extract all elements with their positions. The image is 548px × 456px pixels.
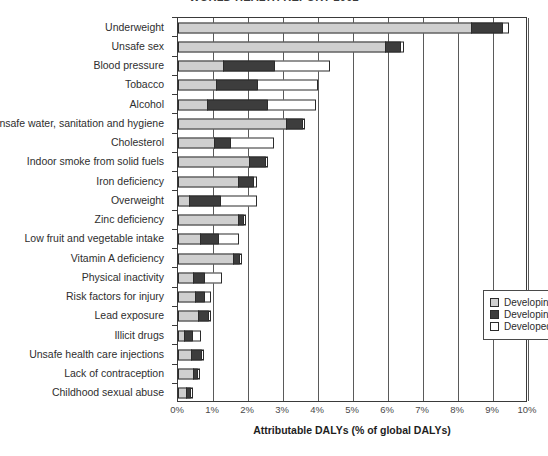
bar-segment-series-1 (178, 99, 208, 110)
x-axis-tick-label: 0% (170, 404, 184, 415)
stacked-bar[interactable] (178, 330, 201, 341)
stacked-bar[interactable] (178, 61, 330, 72)
bar-segment-series-3 (302, 118, 305, 129)
bar-segment-series-2 (207, 99, 268, 110)
bar-row (178, 191, 526, 210)
bar-row (178, 153, 526, 172)
stacked-bar[interactable] (178, 138, 274, 149)
bar-segment-series-3 (243, 215, 246, 226)
stacked-bar[interactable] (178, 215, 246, 226)
stacked-bar[interactable] (178, 99, 316, 110)
y-axis-label: Low fruit and vegetable intake (24, 232, 164, 244)
bar-segment-series-3 (201, 349, 204, 360)
bar-row (178, 18, 526, 37)
bar-segment-series-3 (253, 176, 257, 187)
stacked-bar[interactable] (178, 253, 242, 264)
x-axis-tick-label: 8% (450, 404, 464, 415)
x-axis-tick-label: 4% (310, 404, 324, 415)
y-axis-label: Indoor smoke from solid fuels (27, 155, 164, 167)
stacked-bar[interactable] (178, 272, 222, 283)
bar-segment-series-3 (400, 41, 404, 52)
bar-segment-series-3 (190, 388, 193, 399)
bar-segment-series-1 (178, 157, 250, 168)
x-axis-tick-label: 5% (345, 404, 359, 415)
stacked-bar[interactable] (178, 195, 257, 206)
bar-segment-series-1 (178, 253, 234, 264)
bar-segment-series-3 (192, 330, 201, 341)
bar-segment-series-3 (257, 80, 318, 91)
stacked-bar[interactable] (178, 369, 200, 380)
bar-segment-series-3 (220, 195, 257, 206)
bar-row (178, 37, 526, 56)
bar-segment-series-1 (178, 61, 224, 72)
plot-area: Developing countries with high mortality… (177, 17, 527, 402)
gridline-10% (528, 18, 529, 401)
bar-segment-series-1 (178, 234, 201, 245)
bar-row (178, 211, 526, 230)
bar-segment-series-1 (178, 215, 239, 226)
y-axis-label: Unsafe water, sanitation and hygiene (0, 117, 164, 129)
bar-row (178, 365, 526, 384)
chart-container: WORLD HEALTH REPORT 2002 UnderweightUnsa… (0, 0, 548, 456)
bar-segment-series-2 (189, 195, 221, 206)
bar-row (178, 57, 526, 76)
stacked-bar[interactable] (178, 176, 257, 187)
bar-segment-series-2 (214, 138, 232, 149)
stacked-bar[interactable] (178, 234, 239, 245)
legend-label: Developing countries with high mortality (504, 297, 548, 308)
bar-segment-series-1 (178, 272, 194, 283)
y-axis-label: Iron deficiency (96, 175, 164, 187)
bar-segment-series-3 (197, 369, 200, 380)
x-axis-tick-label: 3% (275, 404, 289, 415)
bar-segment-series-3 (208, 311, 211, 322)
chart-title: WORLD HEALTH REPORT 2002 (0, 0, 548, 3)
stacked-bar[interactable] (178, 118, 305, 129)
bar-segment-series-3 (204, 292, 211, 303)
x-axis-tick-label: 2% (240, 404, 254, 415)
bar-row (178, 249, 526, 268)
stacked-bar[interactable] (178, 22, 509, 33)
bar-segment-series-1 (178, 176, 239, 187)
legend-item[interactable]: Developed countries (490, 321, 548, 332)
bar-segment-series-1 (178, 22, 472, 33)
stacked-bar[interactable] (178, 388, 193, 399)
bar-segment-series-2 (200, 234, 219, 245)
legend-swatch-icon (490, 322, 499, 331)
legend-item[interactable]: Developing countries with high mortality (490, 297, 548, 308)
bar-row (178, 345, 526, 364)
stacked-bar[interactable] (178, 349, 204, 360)
x-axis-tick-label: 6% (380, 404, 394, 415)
stacked-bar[interactable] (178, 292, 211, 303)
bar-segment-series-1 (178, 369, 194, 380)
bar-row (178, 288, 526, 307)
bar-row (178, 134, 526, 153)
y-axis-label: Underweight (105, 21, 164, 33)
stacked-bar[interactable] (178, 157, 268, 168)
x-axis-title: Attributable DALYs (% of global DALYs) (177, 424, 527, 436)
y-axis-label: Blood pressure (93, 59, 164, 71)
bar-segment-series-2 (238, 176, 254, 187)
y-axis-label: Overweight (111, 194, 164, 206)
x-axis-tick-label-group: 0%1%2%3%4%5%6%7%8%9%10% (0, 404, 548, 420)
bar-segment-series-3 (267, 99, 316, 110)
bar-segment-series-1 (178, 311, 199, 322)
stacked-bar[interactable] (178, 80, 318, 91)
legend-label: Developing countries with low mortality (504, 309, 548, 320)
bar-row (178, 76, 526, 95)
bar-segment-series-3 (265, 157, 268, 168)
x-axis-tick-label: 7% (415, 404, 429, 415)
stacked-bar[interactable] (178, 41, 404, 52)
bar-segment-series-1 (178, 292, 196, 303)
y-axis-label: Alcohol (130, 98, 164, 110)
stacked-bar[interactable] (178, 311, 211, 322)
bar-segment-series-2 (249, 157, 267, 168)
bar-segment-series-3 (204, 272, 222, 283)
bar-segment-series-3 (274, 61, 330, 72)
bar-segment-series-1 (178, 349, 192, 360)
bar-segment-series-2 (223, 61, 276, 72)
bar-segment-series-3 (230, 138, 274, 149)
bar-row (178, 95, 526, 114)
legend-swatch-icon (490, 298, 499, 307)
legend-item[interactable]: Developing countries with low mortality (490, 309, 548, 320)
bar-segment-series-2 (471, 22, 503, 33)
